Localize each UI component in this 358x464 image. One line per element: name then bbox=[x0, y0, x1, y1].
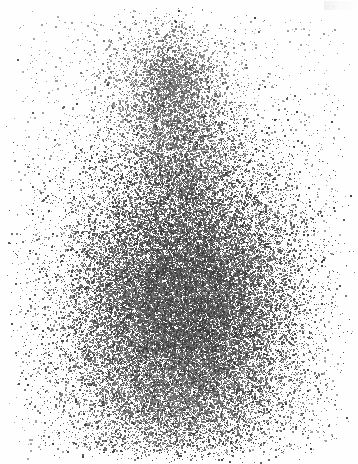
scintigram-dot-field bbox=[0, 0, 358, 464]
scintigram-image bbox=[0, 0, 358, 464]
